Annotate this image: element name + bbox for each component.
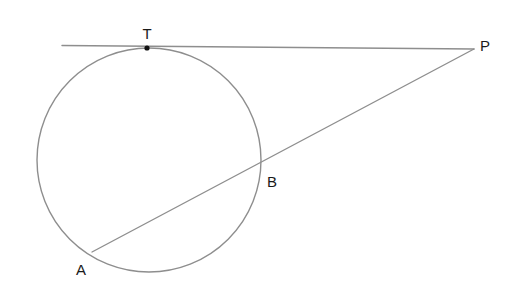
point-markers bbox=[144, 45, 149, 50]
geometry-canvas bbox=[0, 0, 508, 292]
tangent-line-TP bbox=[62, 46, 474, 50]
geometry-figure: TPBA bbox=[0, 0, 508, 292]
point-label-b: B bbox=[267, 174, 277, 189]
point-label-p: P bbox=[480, 38, 490, 53]
point-label-a: A bbox=[76, 262, 86, 277]
secant-line-AP bbox=[92, 49, 474, 252]
point-dot-t bbox=[144, 45, 149, 50]
circle-shape bbox=[37, 48, 261, 272]
point-label-t: T bbox=[142, 26, 151, 41]
